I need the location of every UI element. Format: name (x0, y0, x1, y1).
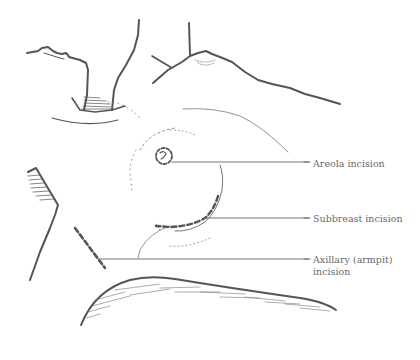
label-areola-incision: Areola incision (313, 158, 385, 170)
leader-lines (99, 162, 308, 259)
breast-profile (152, 23, 340, 104)
areola-incision-mark (156, 148, 172, 164)
axillary-incision-mark (75, 228, 105, 268)
lower-arm (81, 277, 336, 325)
illustration (0, 0, 420, 360)
side-view-figure (27, 20, 139, 124)
diagram-canvas: Areola incision Subbreast incision Axill… (0, 0, 420, 360)
label-axillary-incision: Axillary (armpit) (313, 254, 393, 266)
left-torso (28, 168, 58, 280)
label-subbreast-incision: Subbreast incision (313, 213, 403, 225)
breast-outline (108, 102, 288, 258)
subbreast-incision-mark (156, 196, 218, 227)
label-axillary-incision-line2: incision (313, 266, 350, 278)
